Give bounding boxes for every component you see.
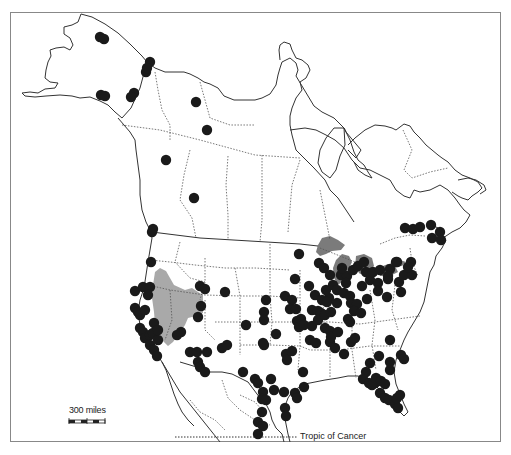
occurrence-dot [192,347,202,357]
occurrence-dot [294,249,304,259]
occurrence-dot [193,312,203,322]
occurrence-dot [383,271,393,281]
occurrence-dot [146,257,156,267]
occurrence-dot [395,390,405,400]
occurrence-dot [350,333,360,343]
occurrence-dot [311,338,321,348]
occurrence-dot [385,357,395,367]
occurrence-dot [341,278,351,288]
occurrence-dot [290,274,300,284]
occurrence-dot [356,308,366,318]
occurrence-dot [200,284,210,294]
occurrence-dot [189,193,199,203]
occurrence-dot [385,335,395,345]
occurrence-dot [148,224,158,234]
occurrence-dot [271,329,281,339]
occurrence-dot [393,403,403,413]
occurrence-dot [220,287,230,297]
scale-bar-label: 300 miles [69,405,106,415]
occurrence-dot [196,301,206,311]
occurrence-dot [153,335,163,345]
occurrence-dot [176,327,186,337]
occurrence-dot [241,320,251,330]
occurrence-dot [266,374,276,384]
occurrence-dot [269,385,279,395]
occurrence-dot [333,327,343,337]
occurrence-dot [253,378,263,388]
occurrence-dot [337,263,347,273]
north-america-map [0,0,511,455]
occurrence-dot [191,97,201,107]
occurrence-dot [292,393,302,403]
occurrence-dot [415,222,425,232]
occurrence-dot [287,295,297,305]
occurrence-dot [325,270,335,280]
occurrence-dot [279,387,289,397]
occurrence-dot [345,317,355,327]
occurrence-dot [261,395,271,405]
occurrence-dot [362,294,372,304]
occurrence-dot [307,321,317,331]
occurrence-dot [100,91,110,101]
occurrence-dot [202,125,212,135]
occurrence-dot [339,349,349,359]
occurrence-dot [373,286,383,296]
occurrence-dot [202,347,212,357]
tropic-of-cancer-label: Tropic of Cancer [300,431,366,441]
occurrence-dot [304,281,314,291]
occurrence-dot [282,355,292,365]
occurrence-dot [365,358,375,368]
occurrence-dot [396,287,406,297]
occurrence-dot [326,307,336,317]
scale-bar [69,418,105,424]
occurrence-dot [330,343,340,353]
occurrence-dot [257,407,267,417]
occurrence-dot [374,351,384,361]
occurrence-dot [332,298,342,308]
occurrence-dot [238,367,248,377]
occurrence-dot [200,367,210,377]
occurrence-dot [298,367,308,377]
occurrence-dot [426,220,436,230]
occurrence-dot [436,235,446,245]
occurrence-dot [359,257,369,267]
occurrence-dot [382,292,392,302]
occurrence-dot [403,262,413,272]
occurrence-dot [380,379,390,389]
occurrence-dot [392,257,402,267]
occurrence-dot [153,325,163,335]
occurrence-dot [281,411,291,421]
occurrence-dot [261,295,271,305]
occurrence-dot [222,340,232,350]
occurrence-dot [291,304,301,314]
occurrence-dot [399,354,409,364]
occurrence-dot [140,305,150,315]
occurrence-dot [142,63,152,73]
occurrence-dot [299,382,309,392]
occurrence-dot [287,346,297,356]
occurrence-dot [152,351,162,361]
occurrence-dot [322,297,332,307]
occurrence-dot [253,429,263,439]
occurrence-dot [161,155,171,165]
occurrence-dot [259,340,269,350]
occurrence-dot [99,34,109,44]
occurrence-dot [126,92,136,102]
occurrence-dot [259,315,269,325]
occurrence-dot [143,290,153,300]
